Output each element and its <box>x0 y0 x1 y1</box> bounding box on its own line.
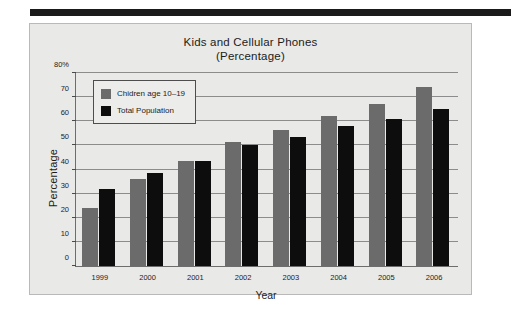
y-tick-label-70: 70 <box>61 84 69 93</box>
y-tick-label-80: 80% <box>54 60 69 69</box>
bar-total-2001[interactable] <box>195 161 211 266</box>
y-tick-label-40: 40 <box>61 156 69 165</box>
bar-total-2005[interactable] <box>386 119 402 266</box>
bar-children-1999[interactable] <box>82 208 98 266</box>
chart-legend: Chidren age 10–19 Total Population <box>93 80 196 124</box>
y-tick-label-20: 20 <box>61 204 69 213</box>
chart-title: Kids and Cellular Phones (Percentage) <box>30 35 471 63</box>
bar-total-2000[interactable] <box>147 173 163 266</box>
chart-title-line2: (Percentage) <box>30 49 471 63</box>
legend-item-total[interactable]: Total Population <box>101 104 185 117</box>
bar-group-2002: 2002 <box>219 73 267 266</box>
legend-label-children: Chidren age 10–19 <box>117 89 185 98</box>
bar-children-2003[interactable] <box>273 130 289 266</box>
bar-group-2003: 2003 <box>267 73 315 266</box>
chart-panel: Kids and Cellular Phones (Percentage) Pe… <box>29 23 472 295</box>
legend-swatch-children-icon <box>101 89 111 99</box>
bar-children-2002[interactable] <box>225 142 241 266</box>
x-tick-label-2006: 2006 <box>410 273 458 282</box>
x-tick-label-2001: 2001 <box>172 273 220 282</box>
y-tick-label-60: 60 <box>61 108 69 117</box>
bar-children-2005[interactable] <box>369 104 385 266</box>
bar-total-2002[interactable] <box>242 145 258 266</box>
x-tick-label-2005: 2005 <box>363 273 411 282</box>
legend-item-children[interactable]: Chidren age 10–19 <box>101 87 185 100</box>
y-tick-label-10: 10 <box>61 228 69 237</box>
x-tick-label-2003: 2003 <box>267 273 315 282</box>
bar-children-2001[interactable] <box>178 161 194 266</box>
chart-title-line1: Kids and Cellular Phones <box>184 36 318 48</box>
bar-children-2004[interactable] <box>321 116 337 266</box>
y-tick-label-0: 0 <box>65 253 69 262</box>
y-tick-label-30: 30 <box>61 180 69 189</box>
bar-total-2006[interactable] <box>433 109 449 266</box>
bar-group-2006: 2006 <box>410 73 458 266</box>
x-axis-title: Year <box>75 289 457 301</box>
legend-label-total: Total Population <box>117 106 174 115</box>
bar-total-2004[interactable] <box>338 126 354 266</box>
bar-total-1999[interactable] <box>99 189 115 266</box>
bar-group-2004: 2004 <box>315 73 363 266</box>
x-tick-label-2000: 2000 <box>124 273 172 282</box>
y-tick-label-50: 50 <box>61 132 69 141</box>
x-tick-label-2002: 2002 <box>219 273 267 282</box>
top-divider-rule <box>30 9 511 16</box>
x-tick-label-2004: 2004 <box>315 273 363 282</box>
x-tick-label-1999: 1999 <box>76 273 124 282</box>
legend-swatch-total-icon <box>101 106 111 116</box>
bar-children-2006[interactable] <box>416 87 432 266</box>
bar-total-2003[interactable] <box>290 137 306 266</box>
bar-group-2005: 2005 <box>363 73 411 266</box>
y-axis-title: Percentage <box>47 133 59 223</box>
bar-children-2000[interactable] <box>130 179 146 266</box>
